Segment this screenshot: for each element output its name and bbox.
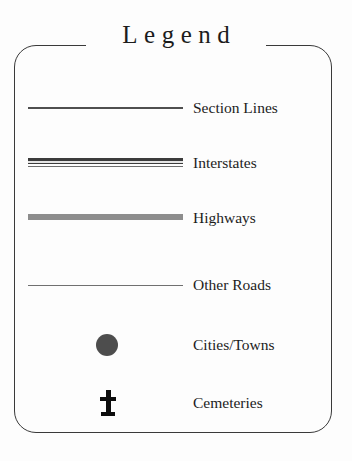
other-roads-symbol (14, 265, 189, 305)
double-line-hairline-icon (28, 166, 183, 167)
interstates-symbol (14, 143, 189, 183)
highways-symbol (14, 198, 189, 238)
interstates-label: Interstates (193, 143, 257, 183)
cemeteries-label: Cemeteries (193, 383, 263, 423)
section-lines-symbol (14, 88, 189, 128)
cross-base-bar (101, 412, 115, 417)
single-line-icon (28, 107, 183, 109)
cities-towns-label: Cities/Towns (193, 325, 275, 365)
legend-entry-cemeteries: Cemeteries (14, 383, 332, 423)
legend-entry-section-lines: Section Lines (14, 88, 332, 128)
clipped-bottom-caption (26, 449, 326, 461)
cross-horizontal-bar (100, 397, 116, 402)
cemeteries-symbol (14, 383, 189, 423)
other-roads-label: Other Roads (193, 265, 271, 305)
legend-entry-highways: Highways (14, 198, 332, 238)
legend-entry-cities-towns: Cities/Towns (14, 325, 332, 365)
legend-entry-other-roads: Other Roads (14, 265, 332, 305)
cross-icon (98, 390, 118, 416)
highways-label: Highways (193, 198, 256, 238)
section-lines-label: Section Lines (193, 88, 278, 128)
hairline-icon (28, 285, 183, 286)
double-line-lower-icon (28, 163, 183, 165)
cities-towns-symbol (14, 325, 189, 365)
thick-band-icon (28, 214, 183, 220)
legend-title: Legend (0, 20, 352, 50)
legend-entry-interstates: Interstates (14, 143, 332, 183)
filled-circle-icon (96, 334, 118, 356)
